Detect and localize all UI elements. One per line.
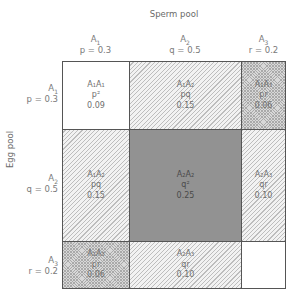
cell-a2a2: A₂A₂ q² 0.25 bbox=[130, 130, 242, 242]
col-header-a1: A1 p = 0.3 bbox=[62, 34, 129, 56]
cell-a2a3-bottom: A₂A₃ qr 0.10 bbox=[130, 242, 242, 288]
cell-a1a1: A₁A₁ p² 0.09 bbox=[63, 62, 130, 130]
row-header-a3: A3 r = 0.2 bbox=[0, 255, 58, 277]
cell-a2a3-right: A₂A₃ qr 0.10 bbox=[242, 130, 285, 242]
row-header-a2: A2 q = 0.5 bbox=[0, 173, 58, 195]
cell-a1a2-left: A₁A₂ pq 0.15 bbox=[63, 130, 130, 242]
row-header-a1: A1 p = 0.3 bbox=[0, 83, 58, 105]
cell-a1a2-top: A₁A₂ pq 0.15 bbox=[130, 62, 242, 130]
col-header-a2: A2 q = 0.5 bbox=[129, 34, 241, 56]
cell-a3a3 bbox=[242, 242, 285, 288]
col-header-a3: A3 r = 0.2 bbox=[241, 34, 286, 56]
punnett-grid: A₁A₁ p² 0.09 A₁A₂ pq 0.15 A₁A₃ pr 0.06 A… bbox=[62, 61, 286, 289]
cell-a1a3-top: A₁A₃ pr 0.06 bbox=[242, 62, 285, 130]
sperm-pool-title: Sperm pool bbox=[0, 9, 302, 19]
cell-a1a3-bottom: A₁A₃ pr 0.06 bbox=[63, 242, 130, 288]
egg-pool-title: Egg pool bbox=[5, 131, 15, 168]
